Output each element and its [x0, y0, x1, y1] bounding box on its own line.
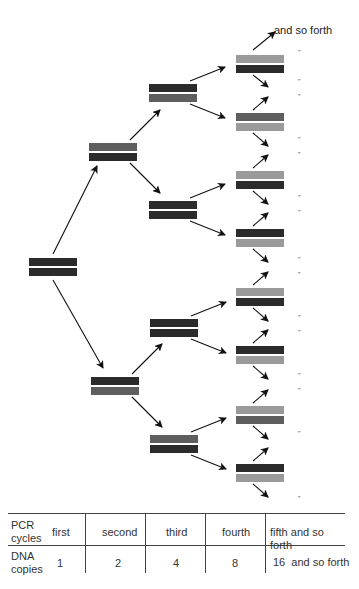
cell-copies-first: 1 — [57, 557, 63, 570]
column-divider — [265, 513, 266, 573]
ditto-mark: " — [298, 93, 301, 100]
ditto-mark: " — [298, 495, 301, 502]
dna-branching-tree — [0, 0, 359, 505]
row-header-line: DNA — [11, 550, 43, 563]
ditto-mark: " — [298, 136, 301, 143]
row-header-dna-copies: DNA copies — [11, 550, 43, 576]
dna-duplex-level-4 — [236, 346, 284, 364]
arrow-icon — [191, 302, 226, 316]
dna-strand-bottom — [236, 474, 284, 482]
dna-strand-bottom — [91, 387, 139, 395]
dna-duplex-level-4 — [236, 55, 284, 73]
arrow-icon — [53, 280, 103, 368]
column-divider — [85, 513, 86, 573]
dna-duplex-group — [29, 55, 284, 482]
dna-duplex-level-4 — [236, 229, 284, 247]
arrow-icon — [253, 75, 268, 87]
arrow-icon — [253, 484, 268, 497]
dna-strand-bottom — [150, 445, 198, 453]
dna-strand-top — [236, 113, 284, 121]
dna-strand-bottom — [89, 153, 137, 161]
dna-duplex-level-4 — [236, 113, 284, 131]
dna-strand-top — [236, 229, 284, 237]
arrow-icon — [253, 97, 268, 110]
dna-strand-top — [150, 319, 198, 327]
arrow-icon — [253, 272, 268, 285]
cell-cycle-third: third — [166, 526, 187, 539]
arrow-icon — [191, 418, 226, 432]
arrow-icon — [130, 163, 160, 193]
dna-duplex-level-1 — [29, 258, 77, 276]
cell-cycle-first: first — [52, 526, 70, 539]
arrow-icon — [190, 221, 225, 235]
arrow-icon — [253, 213, 268, 226]
arrow-icon — [253, 155, 268, 168]
cell-copies-fifth: 16 and so forth — [273, 556, 349, 569]
arrow-icon — [132, 397, 162, 427]
arrow-icon — [130, 110, 160, 140]
dna-strand-top — [236, 406, 284, 414]
dna-strand-bottom — [236, 65, 284, 73]
arrow-icon — [132, 344, 162, 374]
dna-duplex-level-2 — [91, 377, 139, 395]
ditto-mark: " — [298, 49, 301, 56]
dna-duplex-level-3 — [150, 319, 198, 337]
dna-strand-top — [236, 288, 284, 296]
dna-duplex-level-4 — [236, 464, 284, 482]
pcr-amplification-diagram: and so forth """"""""""""""" — [0, 0, 359, 505]
dna-strand-top — [91, 377, 139, 385]
dna-strand-bottom — [236, 298, 284, 306]
arrow-icon — [253, 426, 268, 439]
arrow-icon — [253, 330, 268, 343]
arrow-icon — [190, 104, 225, 118]
dna-duplex-level-4 — [236, 288, 284, 306]
ditto-mark: " — [298, 387, 301, 394]
arrow-icon — [191, 339, 226, 353]
dna-duplex-level-3 — [150, 435, 198, 453]
arrow-icon — [253, 133, 268, 146]
dna-strand-bottom — [236, 416, 284, 424]
arrow-icon — [253, 32, 275, 50]
dna-duplex-level-4 — [236, 406, 284, 424]
dna-strand-top — [236, 55, 284, 63]
row-header-pcr-cycles: PCR cycles — [11, 519, 42, 545]
dna-duplex-level-4 — [236, 171, 284, 189]
cell-copies-second: 2 — [115, 557, 121, 570]
ditto-mark: " — [298, 194, 301, 201]
dna-strand-bottom — [150, 329, 198, 337]
ditto-mark: " — [298, 271, 301, 278]
dna-strand-top — [29, 258, 77, 266]
arrow-icon — [191, 455, 226, 469]
dna-strand-bottom — [236, 123, 284, 131]
ditto-mark: " — [298, 430, 301, 437]
arrow-icon — [190, 184, 225, 198]
arrow-icon — [253, 249, 268, 262]
dna-duplex-level-3 — [149, 84, 197, 102]
dna-strand-top — [236, 171, 284, 179]
arrow-icon — [253, 308, 268, 321]
arrow-icon — [253, 448, 268, 461]
ditto-mark: " — [298, 78, 301, 85]
dna-strand-bottom — [236, 356, 284, 364]
continuation-label: and so forth — [274, 24, 332, 36]
arrow-icon — [53, 166, 97, 254]
dna-strand-bottom — [29, 268, 77, 276]
table-top-rule — [8, 513, 345, 514]
dna-strand-top — [149, 84, 197, 92]
ditto-mark: " — [298, 314, 301, 321]
arrow-icon — [253, 191, 268, 204]
arrow-icon — [253, 390, 268, 403]
row-header-line: PCR — [11, 519, 42, 532]
cell-copies-fourth: 8 — [232, 557, 238, 570]
dna-strand-bottom — [236, 239, 284, 247]
dna-strand-top — [89, 143, 137, 151]
cell-copies-third: 4 — [173, 557, 179, 570]
dna-duplex-level-2 — [89, 143, 137, 161]
ditto-mark: " — [298, 372, 301, 379]
row-header-line: copies — [11, 563, 43, 576]
arrow-icon — [190, 67, 225, 81]
dna-strand-top — [150, 435, 198, 443]
dna-strand-top — [149, 201, 197, 209]
ditto-mark: " — [298, 329, 301, 336]
dna-duplex-level-3 — [149, 201, 197, 219]
